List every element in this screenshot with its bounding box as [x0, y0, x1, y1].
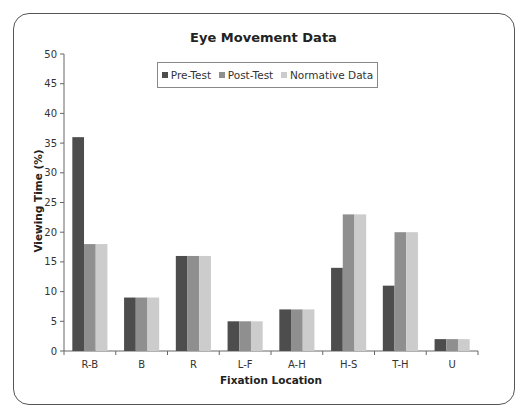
- y-axis-label: Viewing Time (%): [32, 141, 44, 261]
- legend-item-post-test: Post-Test: [219, 69, 273, 81]
- legend-swatch-post-test: [219, 72, 225, 78]
- legend-label: Normative Data: [290, 69, 373, 81]
- legend-swatch-pre-test: [162, 72, 168, 78]
- legend-swatch-normative: [281, 72, 287, 78]
- x-axis-label: Fixation Location: [64, 374, 478, 386]
- legend: Pre-Test Post-Test Normative Data: [157, 62, 378, 88]
- legend-item-pre-test: Pre-Test: [162, 69, 211, 81]
- legend-label: Pre-Test: [171, 69, 211, 81]
- legend-label: Post-Test: [228, 69, 273, 81]
- chart-title: Eye Movement Data: [0, 30, 527, 45]
- legend-item-normative: Normative Data: [281, 69, 373, 81]
